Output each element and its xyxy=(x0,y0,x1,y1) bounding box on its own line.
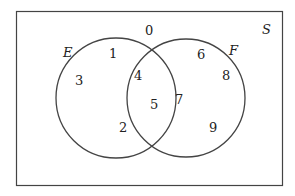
element-5: 5 xyxy=(150,97,158,112)
element-8: 8 xyxy=(222,68,230,83)
set-f-label: F xyxy=(228,43,239,58)
element-2: 2 xyxy=(119,120,127,135)
element-1: 1 xyxy=(109,46,117,61)
element-6: 6 xyxy=(197,47,205,62)
set-e-label: E xyxy=(62,45,73,60)
venn-diagram: S E F 0 1 3 2 4 5 7 6 8 9 xyxy=(0,0,295,196)
element-9: 9 xyxy=(209,120,217,135)
set-f-circle xyxy=(127,39,245,157)
element-0: 0 xyxy=(145,23,153,38)
universe-label: S xyxy=(262,22,271,37)
element-7: 7 xyxy=(175,92,183,107)
element-3: 3 xyxy=(75,73,83,88)
element-4: 4 xyxy=(134,68,142,83)
